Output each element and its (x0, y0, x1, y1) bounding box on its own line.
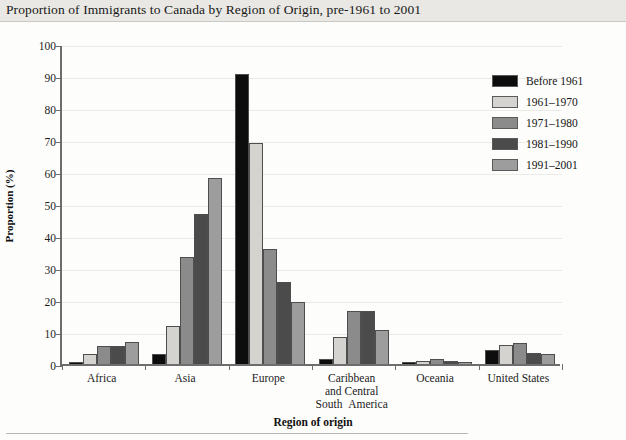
x-tick-label-line: South America (310, 398, 393, 411)
bar[interactable] (319, 359, 333, 364)
bar[interactable] (180, 257, 194, 364)
bar-group (402, 44, 472, 364)
y-tick-label: 80 (22, 104, 56, 116)
x-category-label: Caribbeanand CentralSouth America (310, 372, 393, 411)
x-axis-title: Region of origin (0, 416, 626, 428)
bar[interactable] (375, 330, 389, 364)
y-tick-mark (56, 270, 62, 271)
y-tick-mark (56, 78, 62, 79)
x-category-label: Europe (227, 372, 310, 385)
legend-item[interactable]: 1981–1990 (492, 133, 618, 154)
bar[interactable] (485, 350, 499, 364)
bar[interactable] (361, 311, 375, 364)
x-category-label: Oceania (393, 372, 476, 385)
y-tick-mark (56, 46, 62, 47)
legend-swatch (492, 96, 518, 108)
bar[interactable] (194, 214, 208, 364)
bar[interactable] (416, 361, 430, 364)
x-tick-label-line: Europe (227, 372, 310, 385)
x-tick-label-line: Oceania (393, 372, 476, 385)
y-tick-mark (56, 174, 62, 175)
bar[interactable] (513, 343, 527, 364)
bar-group (235, 44, 305, 364)
chart-legend: Before 19611961–19701971–19801981–199019… (492, 70, 618, 175)
bar[interactable] (277, 282, 291, 364)
bar[interactable] (527, 353, 541, 364)
y-tick-mark (56, 110, 62, 111)
y-tick-mark (56, 334, 62, 335)
legend-item[interactable]: Before 1961 (492, 70, 618, 91)
bar[interactable] (430, 359, 444, 364)
bar-group (69, 44, 139, 364)
y-tick-label: 10 (22, 328, 56, 340)
bar[interactable] (111, 346, 125, 364)
legend-item[interactable]: 1991–2001 (492, 154, 618, 175)
x-tick-mark (229, 364, 230, 370)
bar-group (319, 44, 389, 364)
bar[interactable] (152, 354, 166, 364)
legend-swatch (492, 117, 518, 129)
legend-label: 1961–1970 (526, 96, 578, 108)
legend-swatch (492, 75, 518, 87)
x-category-label: Asia (143, 372, 226, 385)
y-tick-label: 50 (22, 200, 56, 212)
bar[interactable] (249, 143, 263, 364)
y-tick-mark (56, 142, 62, 143)
chart-page: Proportion of Immigrants to Canada by Re… (0, 0, 626, 440)
y-tick-label: 40 (22, 232, 56, 244)
x-tick-mark (562, 364, 563, 370)
bar-group (152, 44, 222, 364)
legend-item[interactable]: 1961–1970 (492, 91, 618, 112)
plot-area (60, 46, 560, 366)
bar[interactable] (97, 346, 111, 364)
x-tick-label-line: Asia (143, 372, 226, 385)
legend-label: 1981–1990 (526, 138, 578, 150)
bar[interactable] (208, 178, 222, 364)
legend-label: 1991–2001 (526, 159, 578, 171)
bar[interactable] (263, 249, 277, 364)
bar[interactable] (235, 74, 249, 364)
y-tick-mark (56, 302, 62, 303)
legend-swatch (492, 159, 518, 171)
y-tick-label: 100 (22, 40, 56, 52)
y-tick-label: 70 (22, 136, 56, 148)
bar[interactable] (402, 362, 416, 364)
x-tick-label-line: and Central (310, 385, 393, 398)
bar[interactable] (541, 354, 555, 364)
y-tick-mark (56, 206, 62, 207)
x-tick-mark (62, 364, 63, 370)
bar[interactable] (291, 302, 305, 364)
bar[interactable] (458, 362, 472, 364)
y-axis-title-text: Proportion (%) (3, 170, 15, 243)
page-title: Proportion of Immigrants to Canada by Re… (6, 2, 421, 18)
legend-swatch (492, 138, 518, 150)
y-tick-label: 60 (22, 168, 56, 180)
y-tick-label: 20 (22, 296, 56, 308)
legend-label: Before 1961 (526, 75, 583, 87)
x-tick-mark (395, 364, 396, 370)
y-tick-label: 0 (22, 360, 56, 372)
bar[interactable] (166, 326, 180, 364)
x-tick-label-line: United States (477, 372, 560, 385)
x-category-label: United States (477, 372, 560, 385)
legend-label: 1971–1980 (526, 117, 578, 129)
bar[interactable] (347, 311, 361, 364)
bar[interactable] (83, 354, 97, 364)
bar[interactable] (125, 342, 139, 364)
y-tick-mark (56, 238, 62, 239)
bar[interactable] (333, 337, 347, 364)
x-tick-mark (312, 364, 313, 370)
x-tick-mark (145, 364, 146, 370)
y-tick-label: 30 (22, 264, 56, 276)
y-axis-title: Proportion (%) (2, 46, 16, 366)
bar[interactable] (499, 345, 513, 364)
legend-item[interactable]: 1971–1980 (492, 112, 618, 133)
bar[interactable] (444, 361, 458, 364)
x-category-label: Africa (60, 372, 143, 385)
y-tick-label: 90 (22, 72, 56, 84)
x-tick-label-line: Africa (60, 372, 143, 385)
bottom-divider (6, 433, 468, 434)
bar[interactable] (69, 362, 83, 364)
x-tick-label-line: Caribbean (310, 372, 393, 385)
x-tick-mark (479, 364, 480, 370)
